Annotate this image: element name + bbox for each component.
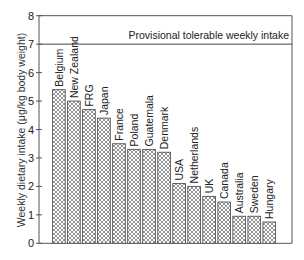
bar-hungary	[263, 222, 276, 243]
reference-line-label: Provisional tolerable weekly intake	[129, 29, 290, 41]
bar-denmark	[158, 152, 171, 243]
y-axis: 012345678	[28, 10, 42, 250]
y-tick-label: 2	[28, 180, 34, 192]
bar-label: New Zealand	[68, 36, 80, 98]
y-tick-label: 6	[28, 67, 34, 79]
y-tick-label: 4	[28, 124, 34, 136]
bar-label: Netherlands	[188, 127, 200, 184]
bar-frg	[83, 110, 96, 244]
bar-sweden	[248, 216, 261, 243]
bar-label: Guatemala	[143, 95, 155, 147]
bar-label: Belgium	[53, 48, 65, 86]
bar-poland	[128, 149, 141, 243]
bar-label: France	[113, 108, 125, 141]
bar-canada	[218, 202, 231, 243]
bar-label: Australia	[233, 172, 245, 213]
bar-chart: Provisional tolerable weekly intake 0123…	[0, 0, 304, 260]
bar-usa	[173, 184, 186, 244]
bar-label: UK	[203, 179, 215, 194]
bar-label: Japan	[98, 86, 110, 115]
bar-label: Sweden	[248, 175, 260, 213]
y-tick-label: 1	[28, 209, 34, 221]
y-tick-label: 7	[28, 38, 34, 50]
bar-japan	[98, 118, 111, 243]
bar-label: Poland	[128, 114, 140, 147]
y-tick-label: 5	[28, 95, 34, 107]
bar-belgium	[53, 90, 66, 244]
bar-label: USA	[173, 159, 185, 181]
bar-label: Hungary	[263, 179, 275, 219]
bar-label: FRG	[83, 84, 95, 106]
bar-label: Canada	[218, 162, 230, 199]
y-tick-label: 3	[28, 152, 34, 164]
bar-label: Denmark	[158, 106, 170, 149]
bar-australia	[233, 216, 246, 243]
y-axis-label: Weekly dietary intake (μg/kg body weight…	[15, 33, 27, 227]
y-tick-label: 8	[28, 10, 34, 22]
y-tick-label: 0	[28, 237, 34, 249]
bar-new-zealand	[68, 101, 81, 243]
bar-netherlands	[188, 186, 201, 243]
bar-uk	[203, 196, 216, 243]
bar-france	[113, 144, 126, 244]
bar-guatemala	[143, 149, 156, 243]
